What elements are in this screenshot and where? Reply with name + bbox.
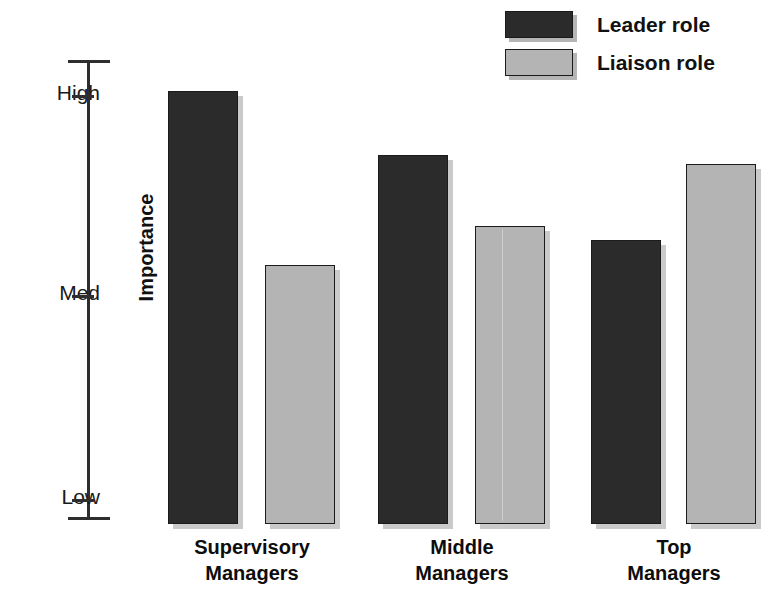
y-tick-label-high: High — [38, 81, 100, 105]
y-tick-med: Med — [0, 295, 100, 298]
chart-legend: Leader role Liaison role — [505, 8, 775, 84]
legend-swatch-leader-role — [505, 11, 573, 38]
y-tick-mark-low — [72, 499, 94, 502]
legend-item-leader-role: Leader role — [505, 8, 775, 46]
y-axis-cap-top — [68, 60, 110, 63]
bar-leader-supervisory-managers — [168, 91, 238, 524]
y-tick-low: Low — [0, 499, 100, 502]
category-label-middle-managers: Middle Managers — [362, 534, 562, 586]
category-label-line2: Managers — [362, 560, 562, 586]
bar-leader-top-managers — [591, 240, 661, 524]
legend-label-leader-role: Leader role — [597, 8, 710, 41]
category-label-line1: Top — [656, 536, 691, 558]
bar-chart-figure: Leader role Liaison role High Med Low Im… — [0, 0, 779, 597]
bar-liaison-supervisory-managers — [265, 265, 335, 524]
bar-liaison-top-managers — [686, 164, 756, 524]
y-tick-high: High — [0, 95, 100, 98]
y-axis-title: Importance — [135, 194, 158, 302]
legend-swatch-liaison-role — [505, 49, 573, 76]
y-tick-mark-high — [72, 95, 94, 98]
y-tick-mark-med — [72, 295, 94, 298]
category-label-line2: Managers — [574, 560, 774, 586]
category-label-top-managers: Top Managers — [574, 534, 774, 586]
y-tick-label-med: Med — [38, 281, 100, 305]
category-label-line2: Managers — [152, 560, 352, 586]
bar-liaison-middle-managers — [475, 226, 545, 524]
legend-label-liaison-role: Liaison role — [597, 46, 715, 79]
category-label-line1: Middle — [430, 536, 493, 558]
bar-leader-middle-managers — [378, 155, 448, 524]
legend-item-liaison-role: Liaison role — [505, 46, 775, 84]
category-label-line1: Supervisory — [194, 536, 310, 558]
category-label-supervisory-managers: Supervisory Managers — [152, 534, 352, 586]
y-tick-label-low: Low — [38, 485, 100, 509]
y-axis-cap-bottom — [68, 517, 110, 520]
